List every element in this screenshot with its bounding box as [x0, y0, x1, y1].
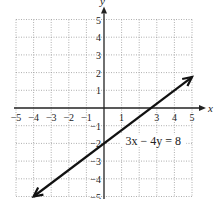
graph: x y −5−4−3−2−11345 54321−1−2−3−4−5 3x − …: [0, 0, 215, 199]
x-tick-label: −2: [63, 112, 74, 123]
y-tick-label: 1: [96, 85, 101, 96]
y-tick-label: 5: [96, 15, 101, 26]
x-axis-arrow: [199, 105, 206, 111]
x-tick-labels: −5−4−3−2−11345: [11, 112, 195, 123]
x-tick-label: −4: [28, 112, 39, 123]
y-tick-label: −3: [90, 156, 101, 167]
x-tick-label: 5: [190, 112, 195, 123]
y-tick-label: −1: [90, 121, 101, 132]
x-axis-label: x: [207, 102, 213, 114]
y-tick-label: 2: [96, 68, 101, 79]
x-tick-label: 4: [172, 112, 177, 123]
y-tick-label: −4: [90, 174, 101, 185]
y-tick-labels: 54321−1−2−3−4−5: [90, 15, 101, 200]
y-axis-arrow: [101, 7, 107, 14]
y-tick-label: 3: [96, 50, 101, 61]
y-axis-label: y: [99, 0, 105, 7]
x-tick-label: −3: [46, 112, 57, 123]
annotations: 3x − 4y = 8: [120, 134, 186, 148]
y-tick-label: −5: [90, 192, 101, 200]
x-tick-label: 3: [154, 112, 159, 123]
y-tick-label: 4: [96, 32, 101, 43]
equation-label: 3x − 4y = 8: [126, 134, 182, 148]
x-tick-label: 1: [119, 112, 124, 123]
x-tick-label: −5: [11, 112, 22, 123]
